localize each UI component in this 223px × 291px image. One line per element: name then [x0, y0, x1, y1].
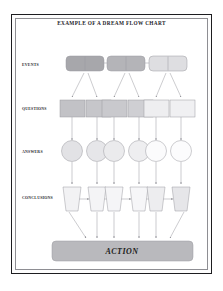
conclusion-node-5[interactable]: [147, 187, 165, 211]
answer-node-1[interactable]: [62, 141, 83, 162]
connectors-questions-to-answers: [72, 117, 181, 140]
diagram-canvas: EVENTS QUESTIONS ANSWERS CONCLUSIONS: [0, 0, 223, 291]
action-label: ACTION: [104, 247, 139, 256]
question-node-6[interactable]: [170, 100, 195, 117]
connectors-events-to-questions: [72, 73, 181, 97]
action-node[interactable]: ACTION: [52, 241, 193, 261]
conclusion-node-1[interactable]: [63, 187, 81, 211]
row-label-questions: QUESTIONS: [22, 107, 47, 111]
questions-row: [60, 100, 195, 117]
answer-node-6[interactable]: [171, 141, 192, 162]
event-node-3[interactable]: [149, 56, 187, 71]
conclusion-node-4[interactable]: [130, 187, 148, 211]
events-row: [66, 56, 187, 71]
flow-chart-page: EXAMPLE OF A DREAM FLOW CHART EVENTS QUE…: [0, 0, 223, 291]
conclusion-node-2[interactable]: [88, 187, 106, 211]
question-node-1[interactable]: [60, 100, 85, 117]
question-node-3[interactable]: [102, 100, 127, 117]
row-label-conclusions: CONCLUSIONS: [22, 196, 53, 200]
question-node-5[interactable]: [144, 100, 169, 117]
conclusion-node-3[interactable]: [105, 187, 123, 211]
answer-node-3[interactable]: [104, 141, 125, 162]
row-label-events: EVENTS: [22, 63, 39, 67]
answer-node-5[interactable]: [146, 141, 167, 162]
conclusions-row: [63, 187, 190, 211]
event-node-1[interactable]: [66, 56, 104, 71]
answers-row: [62, 141, 192, 162]
connectors-answers-to-conclusions: [72, 162, 181, 184]
event-node-2[interactable]: [107, 56, 145, 71]
conclusion-node-6[interactable]: [172, 187, 190, 211]
row-label-answers: ANSWERS: [22, 150, 43, 154]
connectors-conclusions-to-action: [69, 212, 184, 238]
